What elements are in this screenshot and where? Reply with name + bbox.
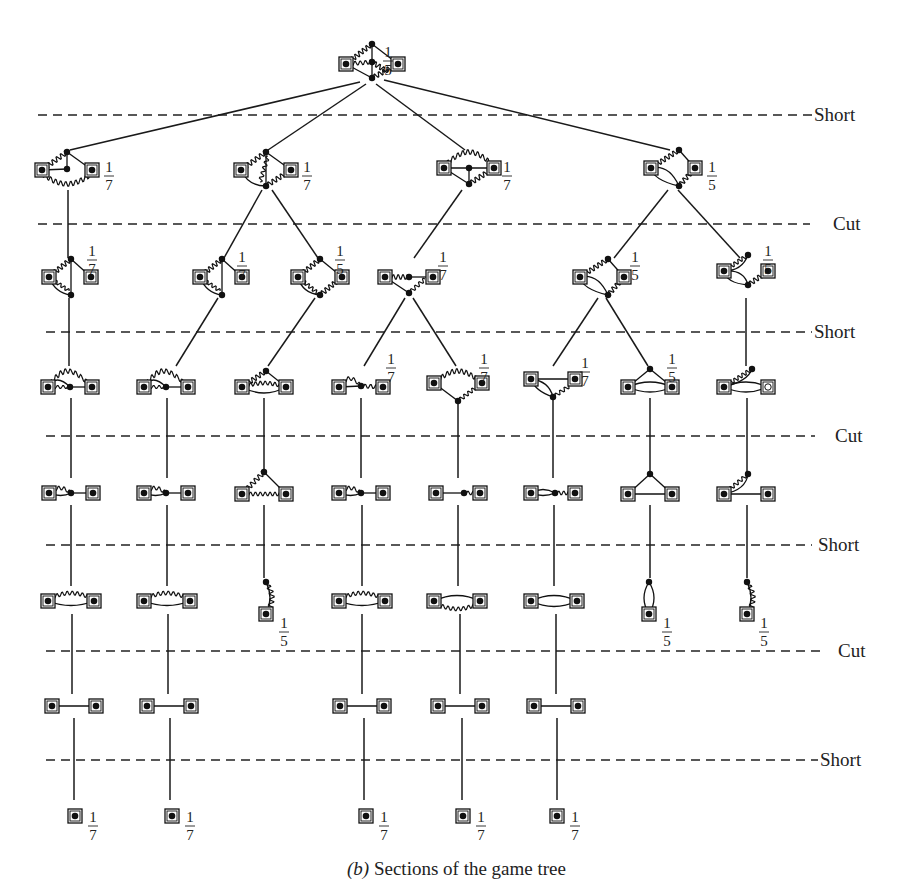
- caption-text: Sections of the game tree: [369, 858, 566, 879]
- graph-node-b1: 17: [193, 249, 249, 298]
- level-line-cut: Cut: [38, 213, 861, 234]
- svg-text:1: 1: [89, 809, 97, 825]
- svg-text:1: 1: [280, 615, 288, 631]
- probability-fraction: 15: [667, 351, 677, 385]
- svg-text:5: 5: [280, 633, 288, 649]
- probability-fraction: 15: [759, 615, 769, 649]
- probability-fraction: 17: [104, 159, 114, 193]
- graph-node-c1b: 17: [427, 351, 489, 404]
- graph-node-b2b: [235, 469, 293, 501]
- graph-node-d1h: 17: [550, 809, 580, 843]
- graph-node-d1c: [524, 486, 582, 500]
- svg-text:7: 7: [387, 369, 395, 385]
- probability-fraction: 17: [185, 809, 195, 843]
- level-line-short: Short: [46, 749, 862, 770]
- svg-text:7: 7: [89, 827, 97, 843]
- svg-text:1: 1: [336, 243, 344, 259]
- level-label: Short: [814, 321, 856, 342]
- probability-fraction: 17: [302, 159, 312, 193]
- probability-fraction: 15: [707, 159, 717, 193]
- svg-text:7: 7: [88, 261, 96, 277]
- probability-fraction: 17: [237, 249, 247, 283]
- svg-text:1: 1: [439, 249, 447, 265]
- tree-nodes: 1517171715171715171515171717151515151717…: [35, 41, 775, 843]
- level-line-cut: Cut: [46, 425, 863, 446]
- probability-fraction: 17: [87, 243, 97, 277]
- svg-text:1: 1: [631, 249, 639, 265]
- svg-text:1: 1: [480, 351, 488, 367]
- svg-text:1: 1: [571, 809, 579, 825]
- probability-fraction: 15: [279, 615, 289, 649]
- probability-fraction: 15: [763, 243, 773, 277]
- graph-node-c1e: [332, 591, 392, 608]
- svg-text:1: 1: [384, 44, 392, 60]
- level-line-cut: Cut: [46, 640, 866, 661]
- probability-fraction: 17: [479, 351, 489, 385]
- graph-node-d1d: [621, 471, 679, 501]
- probability-fraction: 17: [570, 809, 580, 843]
- svg-text:7: 7: [303, 177, 311, 193]
- svg-text:1: 1: [663, 615, 671, 631]
- svg-text:5: 5: [668, 369, 676, 385]
- svg-text:1: 1: [105, 159, 113, 175]
- level-label: Cut: [835, 425, 863, 446]
- game-tree-diagram: ShortCutShortCutShortCutShort 1517171715…: [0, 0, 913, 883]
- tree-edge: [376, 84, 465, 150]
- level-line-short: Short: [46, 321, 856, 342]
- svg-text:5: 5: [760, 633, 768, 649]
- graph-node-c1: 17: [378, 249, 448, 296]
- svg-text:7: 7: [480, 369, 488, 385]
- graph-node-d2a: [717, 366, 775, 394]
- svg-text:1: 1: [708, 159, 716, 175]
- probability-fraction: 17: [386, 351, 396, 385]
- svg-text:1: 1: [764, 243, 772, 259]
- probability-fraction: 17: [88, 809, 98, 843]
- graph-node-c1h: [431, 699, 489, 713]
- tree-edge: [413, 298, 456, 366]
- graph-node-b: 17: [234, 149, 312, 193]
- probability-fraction: 17: [476, 809, 486, 843]
- probability-fraction: 15: [630, 249, 640, 283]
- graph-node-d1e: [524, 594, 584, 608]
- graph-node-c1d: [429, 486, 487, 500]
- graph-node-a6: 17: [68, 809, 98, 843]
- level-label: Cut: [838, 640, 866, 661]
- svg-text:7: 7: [571, 827, 579, 843]
- graph-node-d1: 15: [573, 249, 640, 298]
- graph-node-c1g: [333, 699, 391, 713]
- tree-edge: [606, 298, 648, 366]
- graph-node-a3: [42, 486, 100, 500]
- svg-text:5: 5: [631, 267, 639, 283]
- graph-node-root: 15: [339, 41, 405, 81]
- graph-node-d1g: [527, 699, 585, 713]
- svg-text:7: 7: [439, 267, 447, 283]
- graph-node-a1: 17: [42, 243, 98, 298]
- svg-text:1: 1: [668, 351, 676, 367]
- graph-node-a2: [41, 369, 99, 394]
- caption-prefix: (b): [347, 858, 369, 879]
- svg-text:1: 1: [387, 351, 395, 367]
- svg-text:1: 1: [503, 159, 511, 175]
- svg-text:1: 1: [380, 809, 388, 825]
- probability-fraction: 17: [379, 809, 389, 843]
- probability-fraction: 15: [335, 243, 345, 277]
- svg-text:1: 1: [477, 809, 485, 825]
- svg-text:1: 1: [760, 615, 768, 631]
- probability-fraction: 17: [580, 355, 590, 389]
- graph-node-c1j: 17: [456, 809, 486, 843]
- svg-text:1: 1: [581, 355, 589, 371]
- tree-edge: [70, 82, 360, 150]
- graph-node-b1b: [137, 486, 195, 500]
- graph-node-d1f: 15: [642, 579, 672, 649]
- svg-text:7: 7: [238, 267, 246, 283]
- level-label: Short: [818, 534, 860, 555]
- level-label: Cut: [833, 213, 861, 234]
- graph-node-b2: 15: [291, 243, 349, 298]
- svg-text:1: 1: [303, 159, 311, 175]
- probability-fraction: 17: [438, 249, 448, 283]
- graph-node-a5: [45, 699, 103, 713]
- svg-text:5: 5: [384, 62, 392, 78]
- level-label: Short: [820, 749, 862, 770]
- graph-node-a4: [41, 591, 101, 608]
- graph-node-b1d: [140, 699, 198, 713]
